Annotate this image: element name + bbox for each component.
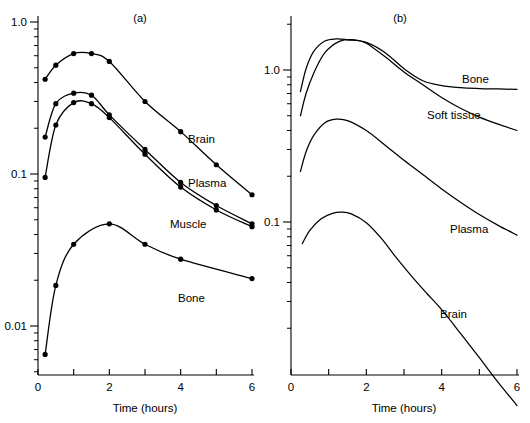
data-point-marker bbox=[249, 276, 254, 281]
figure-root: (a) 0.010.11.0 0246 Brain Plasma Muscle … bbox=[0, 0, 530, 423]
data-point-marker bbox=[214, 207, 219, 212]
data-point-marker bbox=[107, 59, 112, 64]
data-point-marker bbox=[249, 192, 254, 197]
series-curve-plasma bbox=[300, 119, 517, 235]
data-point-marker bbox=[71, 100, 76, 105]
data-point-marker bbox=[53, 283, 58, 288]
y-tick-label: 0.01 bbox=[5, 320, 27, 332]
y-tick-label: 1.0 bbox=[264, 64, 280, 76]
x-tick-label: 4 bbox=[177, 381, 184, 393]
panel-a-series-label-brain: Brain bbox=[188, 133, 215, 145]
data-point-marker bbox=[178, 257, 183, 262]
data-point-marker bbox=[249, 224, 254, 229]
panel-b-series-label-brain: Brain bbox=[440, 308, 467, 320]
series-curve-brain bbox=[45, 52, 252, 194]
data-point-marker bbox=[107, 221, 112, 226]
x-tick-label: 2 bbox=[363, 381, 369, 393]
data-point-marker bbox=[107, 115, 112, 120]
data-point-marker bbox=[53, 63, 58, 68]
x-tick-label: 6 bbox=[249, 381, 255, 393]
y-tick-label: 0.1 bbox=[264, 216, 280, 228]
x-tick-label: 0 bbox=[288, 381, 294, 393]
data-point-marker bbox=[89, 51, 94, 56]
x-tick-label: 0 bbox=[35, 381, 41, 393]
x-tick-label: 4 bbox=[438, 381, 445, 393]
data-point-marker bbox=[89, 93, 94, 98]
series-curve-brain bbox=[302, 212, 517, 405]
panel-a-title: (a) bbox=[133, 12, 146, 24]
data-point-marker bbox=[43, 77, 48, 82]
panel-a-series-label-muscle: Muscle bbox=[170, 218, 206, 230]
panel-b-x-axis-title: Time (hours) bbox=[372, 402, 437, 414]
panel-a-data-points bbox=[43, 51, 255, 357]
panel-a-x-axis: 0246 bbox=[35, 369, 255, 393]
data-point-marker bbox=[71, 51, 76, 56]
x-tick-label: 6 bbox=[514, 381, 520, 393]
data-point-marker bbox=[142, 147, 147, 152]
data-point-marker bbox=[214, 162, 219, 167]
panel-b-series-label-soft-tissue: Soft tissue bbox=[427, 109, 481, 121]
panel-a-curves bbox=[45, 52, 252, 354]
panel-a-y-axis: 0.010.11.0 bbox=[5, 16, 38, 375]
x-tick-label: 2 bbox=[106, 381, 112, 393]
panel-b-series-label-plasma: Plasma bbox=[450, 223, 489, 235]
panel-b-title: (b) bbox=[393, 12, 406, 24]
dual-panel-pharmacokinetic-figure: (a) 0.010.11.0 0246 Brain Plasma Muscle … bbox=[0, 0, 530, 423]
data-point-marker bbox=[43, 352, 48, 357]
panel-a-x-axis-title: Time (hours) bbox=[113, 402, 178, 414]
data-point-marker bbox=[142, 242, 147, 247]
panel-a-series-label-plasma: Plasma bbox=[188, 177, 227, 189]
series-curve-bone bbox=[45, 224, 252, 355]
data-point-marker bbox=[43, 134, 48, 139]
panel-b-y-axis: 0.11.0 bbox=[264, 16, 291, 375]
data-point-marker bbox=[53, 122, 58, 127]
panel-b-x-axis: 0246 bbox=[288, 369, 520, 393]
panel-a-series-label-bone: Bone bbox=[178, 292, 205, 304]
panel-a: (a) 0.010.11.0 0246 Brain Plasma Muscle … bbox=[5, 12, 256, 414]
data-point-marker bbox=[142, 152, 147, 157]
data-point-marker bbox=[71, 91, 76, 96]
y-tick-label: 0.1 bbox=[11, 168, 27, 180]
data-point-marker bbox=[178, 180, 183, 185]
data-point-marker bbox=[142, 99, 147, 104]
data-point-marker bbox=[89, 101, 94, 106]
panel-b: (b) 0.11.0 0246 Bone Soft tissue Plasma … bbox=[264, 12, 520, 414]
data-point-marker bbox=[178, 129, 183, 134]
data-point-marker bbox=[53, 101, 58, 106]
data-point-marker bbox=[43, 175, 48, 180]
data-point-marker bbox=[71, 242, 76, 247]
y-tick-label: 1.0 bbox=[11, 16, 27, 28]
data-point-marker bbox=[178, 185, 183, 190]
panel-b-series-label-bone: Bone bbox=[462, 73, 489, 85]
